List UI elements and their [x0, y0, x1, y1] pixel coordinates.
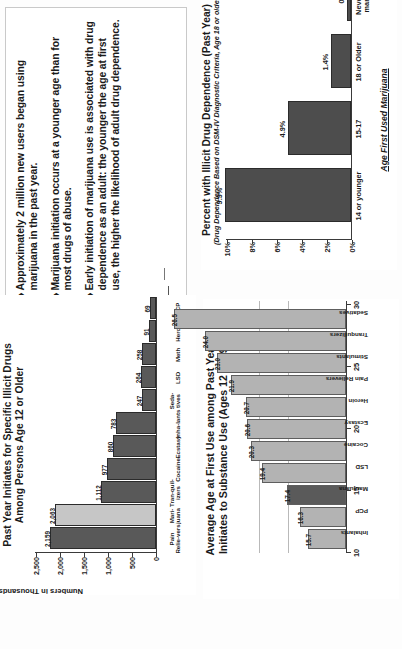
- bar-value-label: 977: [101, 465, 108, 476]
- bullet-text: Approximately 2 million new users began …: [15, 18, 41, 291]
- y-tick-mark: [252, 240, 253, 244]
- y-tick-mark: [227, 240, 228, 244]
- plot-area: 10 15 20 25 30 15.7 16.3 17.4 19.4: [233, 299, 373, 599]
- bar-value-label: 20.7: [243, 402, 250, 414]
- bar: [141, 366, 156, 388]
- y-tick-mark: [352, 240, 353, 244]
- scanned-page: ♦ Approximately 2 million new users bega…: [0, 0, 402, 649]
- bar: [50, 527, 156, 549]
- x-category-label: 15-17: [352, 100, 363, 158]
- bar-value-label: 2,063: [49, 508, 56, 524]
- x-category-label: Pain Relievers: [326, 376, 368, 383]
- y-axis: [226, 239, 352, 240]
- x-tick-mark: [347, 304, 351, 305]
- bar: [142, 389, 156, 411]
- bar-value-label: 264: [135, 373, 142, 384]
- y-tick-label: 1,500: [80, 557, 89, 585]
- y-tick-mark: [36, 553, 37, 557]
- bar: [251, 441, 346, 461]
- x-category-label: Marijuana: [340, 486, 369, 493]
- y-axis: [35, 552, 157, 553]
- chart-subtitle: (Drug Dependence Based on DSM-IV Diagnos…: [213, 0, 221, 270]
- bar-value-label: 16.3: [297, 512, 304, 524]
- y-tick-label: 4%: [297, 242, 306, 270]
- x-tick-mark: [347, 552, 351, 553]
- x-category-label: Stimulants: [337, 354, 369, 361]
- y-tick-mark: [108, 553, 109, 557]
- bullet-item: ♦ Approximately 2 million new users bega…: [15, 18, 41, 297]
- y-tick-label: 1,000: [104, 557, 113, 585]
- x-category-label: Cocaine: [344, 442, 368, 449]
- bar: [246, 397, 346, 417]
- bullet-text: Marijuana initiation occurs at a younger…: [50, 18, 76, 291]
- x-category-label: Tranquilizers: [330, 332, 368, 339]
- x-axis-title: Age First Used Marijuana: [379, 0, 389, 270]
- bullet-text: Early initiation of marijuana use is ass…: [84, 18, 122, 291]
- bar: [113, 435, 156, 457]
- x-category-label: 14 or younger: [352, 167, 363, 225]
- bar: [101, 481, 156, 503]
- bar-value-label: 2,159: [44, 531, 51, 547]
- plot-area: 0% 2% 4% 6% 8% 10% 9.9% 4.9% 1.4% 0.: [226, 0, 352, 270]
- chart-title: Past Year Initiates for Specific Illicit…: [0, 295, 26, 595]
- y-tick-label: 10%: [222, 242, 231, 270]
- y-tick-mark: [302, 240, 303, 244]
- x-tick-label: 30: [352, 301, 361, 309]
- bar: [262, 463, 346, 483]
- x-tick-mark: [347, 428, 351, 429]
- bar-value-label: 20.6: [244, 424, 251, 436]
- bar-value-label: 24.0: [202, 336, 209, 348]
- bar: [347, 0, 351, 21]
- y-tick-label: 6%: [272, 242, 281, 270]
- bar-value-label: 783: [110, 419, 117, 430]
- bar-value-label: 9.9%: [215, 188, 224, 205]
- stray-bar-mark: [164, 268, 165, 280]
- bar-highlight-marijuana: [55, 504, 156, 526]
- plot-area: Numbers in Thousands 0 500 1,000 1,500 2…: [31, 295, 181, 595]
- y-tick-mark: [84, 553, 85, 557]
- bar-value-label: 21.9: [228, 380, 235, 392]
- bar-highlight-marijuana: [287, 485, 346, 505]
- y-tick-label: 2%: [322, 242, 331, 270]
- bar: [331, 34, 351, 88]
- chart-average-age-first-use: Average Age at First Use among Past Year…: [203, 299, 399, 599]
- bar-value-label: 4.9%: [278, 121, 287, 138]
- bar-value-label: 258: [136, 350, 143, 361]
- x-tick-label: 10: [352, 549, 361, 557]
- bar: [107, 458, 156, 480]
- chart-past-year-initiates: Past Year Initiates for Specific Illicit…: [0, 295, 196, 595]
- bar: [149, 320, 156, 342]
- x-category-label: Sedatives: [340, 310, 369, 317]
- x-category-label: Ecstasy: [345, 420, 368, 427]
- x-tick-mark: [347, 366, 351, 367]
- y-tick-mark: [156, 553, 157, 557]
- x-category-label: Heroin: [349, 398, 369, 405]
- x-category-label: Inhalants: [341, 530, 368, 537]
- y-tick-label: 8%: [247, 242, 256, 270]
- bullet-slide: ♦ Approximately 2 million new users bega…: [5, 7, 187, 307]
- x-category-label: Never used marijuana: [352, 0, 372, 24]
- bar: [142, 343, 156, 365]
- x-tick-label: 25: [352, 363, 361, 371]
- y-tick-mark: [277, 240, 278, 244]
- bar-value-label: 26.5: [171, 314, 178, 326]
- bar-value-label: 20.3: [248, 446, 255, 458]
- y-tick-label: 2,500: [32, 557, 41, 585]
- x-category-label: 18 or Older: [352, 33, 363, 91]
- y-tick-label: 0%: [347, 242, 356, 270]
- x-category-label: PCP: [356, 508, 369, 515]
- bar-value-label: 247: [136, 396, 143, 407]
- bar: [225, 168, 351, 222]
- slide-bullets-quadrant: ♦ Approximately 2 million new users bega…: [0, 0, 201, 325]
- chart-past-year-initiates-quadrant: Past Year Initiates for Specific Illicit…: [0, 325, 201, 649]
- x-category-label: LSD: [356, 464, 368, 471]
- bar: [288, 101, 351, 155]
- y-axis-title: Numbers in Thousands: [0, 587, 83, 596]
- y-tick-mark: [132, 553, 133, 557]
- y-tick-mark: [327, 240, 328, 244]
- bar-value-label: 91: [143, 328, 150, 335]
- y-tick-label: 0: [152, 557, 161, 585]
- bar: [205, 331, 346, 351]
- bar-value-label: 1,112: [95, 485, 102, 501]
- bar-value-label: 69: [144, 305, 151, 312]
